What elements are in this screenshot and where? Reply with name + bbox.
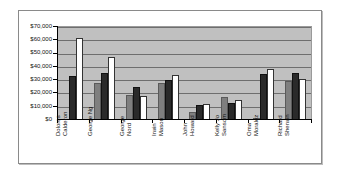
- x-tick-mark: [279, 119, 280, 123]
- y-tick-label: $30,000: [18, 76, 52, 83]
- bar-dolores-calderon-series-3: [76, 38, 83, 120]
- plot-area: [57, 26, 312, 120]
- bar-john-howard-series-2: [196, 105, 203, 120]
- bar-oma-moralez-series-2: [260, 74, 267, 120]
- x-tick-label: Richard Sherwin: [277, 124, 311, 136]
- x-tick-label: Dolores Calderon: [55, 124, 89, 136]
- bar-irwin-mason-series-1: [158, 83, 165, 120]
- x-tick-label: Irwin Mason: [151, 124, 185, 136]
- y-tick-mark: [53, 66, 57, 67]
- bar-kelly-jo-sansom-series-3: [235, 100, 242, 120]
- y-tick-label: $20,000: [18, 89, 52, 96]
- bar-oma-moralez-series-3: [267, 69, 274, 120]
- gridline: [57, 67, 311, 68]
- y-tick-label: $50,000: [18, 49, 52, 56]
- x-tick-mark: [121, 119, 122, 123]
- bar-george-nord-series-3: [140, 96, 147, 120]
- x-tick-label: Kelly Jo Sansom: [214, 124, 248, 136]
- y-tick-label: $10,000: [18, 103, 52, 110]
- x-tick-label: Oma Moralez: [246, 124, 280, 136]
- x-tick-mark: [248, 119, 249, 123]
- y-tick-mark: [53, 53, 57, 54]
- x-tick-mark: [184, 119, 185, 123]
- bar-george-nord-series-1: [126, 95, 133, 120]
- bar-kelly-jo-sansom-series-2: [228, 103, 235, 120]
- x-tick-mark: [311, 119, 312, 123]
- y-tick-mark: [53, 26, 57, 27]
- gridline: [57, 27, 311, 28]
- x-tick-mark: [89, 119, 90, 123]
- bar-irwin-mason-series-2: [165, 80, 172, 120]
- x-tick-label: George Nord: [119, 124, 153, 136]
- gridline: [57, 40, 311, 41]
- x-tick-mark: [216, 119, 217, 123]
- bar-george-ng-series-3: [108, 57, 115, 120]
- y-tick-mark: [53, 92, 57, 93]
- x-tick-label: George Ng: [87, 124, 121, 136]
- y-tick-label: $60,000: [18, 36, 52, 43]
- bar-dolores-calderon-series-2: [69, 76, 76, 120]
- x-tick-mark: [57, 119, 58, 123]
- bar-george-ng-series-2: [101, 73, 108, 120]
- y-tick-label: $40,000: [18, 63, 52, 70]
- y-tick-mark: [53, 39, 57, 40]
- x-tick-label: John Howard: [182, 124, 216, 136]
- y-tick-mark: [53, 79, 57, 80]
- bar-irwin-mason-series-3: [172, 75, 179, 120]
- y-tick-label: $70,000: [18, 23, 52, 30]
- bar-john-howard-series-3: [203, 104, 210, 120]
- gridline: [57, 54, 311, 55]
- y-tick-mark: [53, 106, 57, 107]
- bar-george-ng-series-1: [94, 83, 101, 120]
- bar-richard-sherwin-series-2: [292, 73, 299, 120]
- bar-richard-sherwin-series-3: [299, 79, 306, 120]
- x-tick-mark: [152, 119, 153, 123]
- y-tick-label: $0: [18, 116, 52, 123]
- y-axis: [57, 26, 58, 120]
- bar-george-nord-series-2: [133, 87, 140, 120]
